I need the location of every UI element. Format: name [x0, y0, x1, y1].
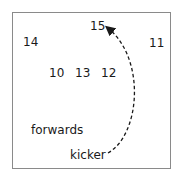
kick-arrow-icon	[0, 0, 184, 178]
